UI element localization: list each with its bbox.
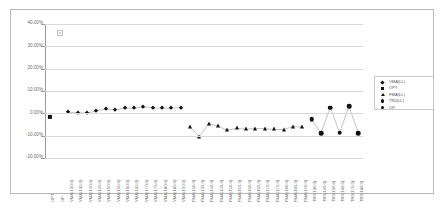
gridline (45, 46, 363, 47)
x-axis-tick-label: FMA(185.0) (294, 180, 298, 202)
legend-item[interactable]: OP (378, 105, 431, 111)
data-point-marker (253, 126, 257, 130)
legend-item-label: TR0(LL) (389, 99, 404, 103)
y-axis-tick (41, 113, 45, 114)
data-point-marker (291, 124, 295, 128)
x-axis-tick-label: FMA(155.0) (238, 180, 242, 202)
plot-area: x (45, 24, 363, 158)
x-axis-tick-label: FMA(135.0) (201, 180, 205, 202)
data-point-marker (309, 117, 314, 122)
data-point-marker (235, 126, 239, 130)
y-axis-labels: 40.00%30.00%20.00%10.00%0.00%-10.00%-20.… (10, 24, 43, 158)
x-axis-tick-label: OPT (51, 193, 55, 202)
series-line-tr0ll (312, 106, 359, 133)
triangle-marker-icon (378, 93, 387, 96)
data-point-marker (244, 127, 248, 131)
gridline (45, 24, 363, 25)
chart-legend: VMA(LL)OPTFMA(LL)TR0(LL)OP (374, 76, 434, 110)
data-point-marker (263, 126, 267, 130)
data-point-marker (328, 105, 333, 110)
x-axis-tick-label: VMA(145.0) (98, 180, 102, 202)
gridline (45, 69, 363, 70)
x-axis-tick-label: VMA(170.0) (145, 180, 149, 202)
x-axis-tick-label: TR0(170.0) (351, 181, 355, 202)
x-axis-tick-label: VMA(190.0) (182, 180, 186, 202)
x-axis-tick-label: VMA(180.0) (164, 180, 168, 202)
x-axis-tick-label: VMA(155.0) (117, 180, 121, 202)
gridline (45, 91, 363, 92)
x-axis-tick-label: VMA(160.0) (126, 180, 130, 202)
x-axis-tick-label: FMA(145.0) (220, 180, 224, 202)
x-axis-tick-label: OP (61, 196, 65, 202)
legend-item[interactable]: OPT (378, 85, 431, 91)
legend-item[interactable]: TR0(LL) (378, 98, 431, 104)
data-point-marker (356, 131, 361, 136)
circle-marker-icon (378, 106, 387, 110)
x-axis-tick-label: FMA(165.0) (257, 180, 261, 202)
x-axis-tick-label: FMA(170.0) (266, 180, 270, 202)
x-axis-tick-label: FMA(190.0) (304, 180, 308, 202)
x-axis-tick-label: VMA(175.0) (154, 180, 158, 202)
data-point-marker (48, 115, 52, 119)
y-axis-tick (41, 24, 45, 25)
x-axis-tick-label: VMA(150.0) (107, 180, 111, 202)
x-axis-tick-label: VMA(130.0) (70, 180, 74, 202)
data-point-marker (282, 127, 286, 131)
legend-item[interactable]: VMA(LL) (378, 79, 431, 85)
data-point-marker (272, 127, 276, 131)
x-axis-tick-label: FMA(160.0) (248, 180, 252, 202)
x-axis-tick-label: TR0(160.0) (341, 181, 345, 202)
x-axis-tick-label: VMA(165.0) (135, 180, 139, 202)
data-point-marker (207, 121, 211, 125)
x-axis-tick-label: VMA(140.0) (89, 180, 93, 202)
x-axis-tick-label: TR0(140.0) (323, 181, 327, 202)
x-axis-tick-label: TR0(130.0) (313, 181, 317, 202)
legend-item-label: VMA(LL) (389, 80, 405, 84)
y-axis-tick (41, 69, 45, 70)
square-marker-icon (378, 87, 387, 90)
diamond-marker-icon (378, 81, 387, 84)
x-axis-tick-label: TR0(180.0) (360, 181, 364, 202)
data-point-marker (347, 104, 352, 109)
x-axis-tick-label: FMA(130.0) (192, 180, 196, 202)
legend-item-label: OPT (389, 86, 397, 90)
legend-item-label: OP (389, 106, 395, 110)
data-point-marker (216, 124, 220, 128)
gridline (45, 136, 363, 137)
x-axis-tick-label: FMA(150.0) (229, 180, 233, 202)
data-point-marker (300, 125, 304, 129)
x-axis-tick-label: VMA(135.0) (79, 180, 83, 202)
x-axis-tick-label: FMA(140.0) (210, 180, 214, 202)
x-axis-tick-label: VMA(185.0) (173, 180, 177, 202)
y-axis-tick (41, 91, 45, 92)
y-axis-tick (41, 46, 45, 47)
x-axis-tick-label: FMA(180.0) (285, 180, 289, 202)
data-point-marker (188, 125, 192, 129)
data-point-marker (225, 128, 229, 132)
legend-item[interactable]: FMA(LL) (378, 92, 431, 98)
gridline (45, 158, 363, 159)
x-axis-labels: OPTOPVMA(130.0)VMA(135.0)VMA(140.0)VMA(1… (45, 160, 363, 204)
x-axis-tick-label: FMA(175.0) (276, 180, 280, 202)
x-axis-tick-label: TR0(150.0) (332, 181, 336, 202)
y-axis-tick (41, 158, 45, 159)
y-axis-tick (41, 136, 45, 137)
gridline (45, 113, 363, 114)
legend-item-label: FMA(LL) (389, 93, 405, 97)
chart-frame: 40.00%30.00%20.00%10.00%0.00%-10.00%-20.… (10, 9, 434, 194)
circle-marker-icon (378, 99, 387, 103)
data-point-marker (337, 130, 342, 135)
